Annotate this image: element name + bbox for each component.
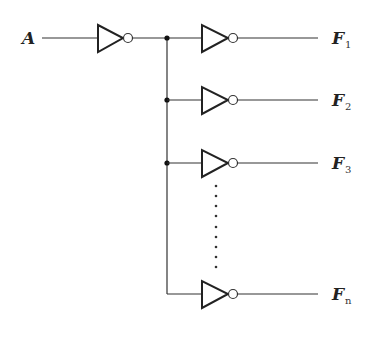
inverter-triangle-icon — [202, 25, 228, 52]
inverter-bubble-icon — [229, 159, 238, 168]
output-label-f1: F1 — [331, 28, 351, 50]
inverter-bubble-icon — [229, 34, 238, 43]
input-inverter-gate — [98, 25, 133, 52]
inverter-bubble-icon — [229, 96, 238, 105]
output-label-f3: F3 — [331, 153, 351, 175]
output-label-fn: Fn — [331, 284, 352, 306]
input-label-a: A — [20, 28, 35, 48]
logic-circuit-diagram: A F1 F2 F3 — [0, 0, 371, 337]
vertical-ellipsis-icon — [215, 185, 218, 269]
output-label-f2: F2 — [331, 90, 351, 112]
output-inverter-1 — [202, 25, 318, 52]
output-inverter-3 — [202, 150, 318, 177]
junction-dot-1 — [164, 35, 169, 40]
inverter-bubble-icon — [229, 290, 238, 299]
inverter-triangle-icon — [202, 150, 228, 177]
inverter-bubble-icon — [124, 34, 133, 43]
inverter-triangle-icon — [202, 281, 228, 308]
output-inverter-n — [202, 281, 318, 308]
output-inverter-2 — [202, 87, 318, 114]
inverter-triangle-icon — [98, 25, 123, 52]
inverter-triangle-icon — [202, 87, 228, 114]
